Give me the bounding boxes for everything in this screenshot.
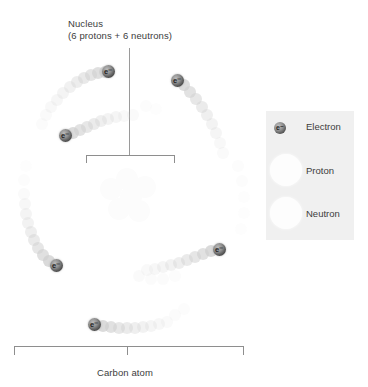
neutron-icon	[270, 197, 302, 229]
shell-ghost-blob	[18, 174, 30, 186]
atom-diagram: Nucleus (6 protons + 6 neutrons) e⁻	[0, 0, 368, 387]
proton-icon	[270, 154, 302, 186]
electron-icon: e⁻	[274, 122, 286, 134]
shell-ghost-blob	[20, 160, 32, 172]
legend-row-electron: e⁻ Electron	[266, 115, 354, 158]
shell-ghost-blob	[157, 273, 169, 285]
shell-ghost-blob	[133, 270, 145, 282]
shell-ghost-blob	[236, 175, 248, 187]
legend-label-proton: Proton	[306, 165, 334, 176]
shell-ghost-blob	[150, 103, 162, 115]
carbon-atom-bracket	[14, 346, 244, 355]
shell-ghost-blob	[169, 270, 181, 282]
shell-ghost-blob	[178, 303, 190, 315]
legend-label-electron: Electron	[306, 121, 341, 132]
legend-label-neutron: Neutron	[306, 208, 340, 219]
shell-ghost-blob	[235, 223, 247, 235]
legend-panel: e⁻ Electron Proton Neutron	[266, 111, 354, 240]
legend-row-proton: Proton	[266, 154, 354, 197]
shell-ghost-blob	[238, 207, 250, 219]
legend-row-neutron: Neutron	[266, 197, 354, 240]
carbon-atom-caption: Carbon atom	[0, 367, 250, 379]
shell-ghost-blob	[238, 191, 250, 203]
shell-ghost-blob	[145, 273, 157, 285]
electron-icon-tag: e⁻	[276, 123, 284, 132]
shell-ghost-blob	[232, 160, 244, 172]
carbon-atom-bracket-tick	[127, 346, 128, 355]
